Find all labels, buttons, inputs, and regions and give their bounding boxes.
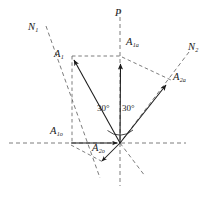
normal-label-n1-sub: 1: [35, 26, 38, 33]
vector-label-a1a: A1a: [126, 37, 139, 48]
vector-arrows: [71, 60, 166, 161]
vector-label-a1: A1: [54, 49, 64, 60]
vector-label-a1o: A1o: [50, 126, 63, 137]
normal-label-n2: N2: [188, 42, 198, 53]
angle-label-right: 30°: [122, 104, 135, 113]
vector-label-a1a-text: A: [126, 36, 132, 47]
projection-a1a-to-a2a: [122, 57, 171, 80]
vector-label-a2a: A2a: [173, 72, 186, 83]
normal-line-n2-extension: [120, 143, 145, 176]
vector-a1a: [120, 64, 121, 143]
vector-diagram-figure: P N1 N2 A1 A1a A1o A2a A2o 30° 30°: [0, 0, 215, 206]
normal-label-n1: N1: [28, 22, 38, 33]
vector-label-a2o-text: A: [92, 142, 98, 153]
axis-label-p-text: P: [115, 7, 121, 18]
normal-label-n2-text: N: [188, 41, 195, 52]
angle-label-left: 30°: [97, 104, 110, 113]
vector-label-a2a-sub: 2a: [180, 76, 186, 83]
vector-label-a1-text: A: [54, 48, 60, 59]
vector-label-a1-sub: 1: [61, 53, 64, 60]
vector-label-a2o: A2o: [92, 143, 105, 154]
construction-lines: [71, 56, 171, 162]
vector-label-a1o-text: A: [50, 125, 56, 136]
normal-label-n1-text: N: [28, 21, 35, 32]
vector-label-a2a-text: A: [173, 71, 179, 82]
vector-label-a1o-sub: 1o: [57, 130, 63, 137]
vector-label-a1a-sub: 1a: [133, 41, 139, 48]
normal-label-n2-sub: 2: [195, 46, 198, 53]
vector-a1: [74, 60, 120, 143]
axis-label-p: P: [115, 8, 121, 19]
normal-lines: [46, 26, 189, 178]
axis-lines: [9, 10, 186, 186]
vector-label-a2o-sub: 2o: [99, 147, 105, 154]
